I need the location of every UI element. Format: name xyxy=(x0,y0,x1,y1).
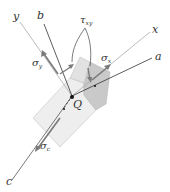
stress-diagram-svg xyxy=(0,0,170,192)
sigma-y-sub: y xyxy=(39,62,42,69)
tau-xy-label: τxy xyxy=(80,15,92,26)
tau-leader-left xyxy=(72,28,85,62)
axis-label-c: c xyxy=(6,176,12,187)
sigma-x-label: σx xyxy=(101,53,111,64)
axis-label-b: b xyxy=(37,10,44,21)
sigma-x-sub: x xyxy=(108,57,111,64)
a-axis-dot xyxy=(94,85,96,87)
axis-label-x: x xyxy=(152,24,158,35)
axis-label-y: y xyxy=(13,11,19,22)
stress-diagram: y b x a c Q σy σx σc τxy xyxy=(0,0,170,192)
c-axis-dot xyxy=(63,108,65,110)
sigma-y-base: σ xyxy=(32,57,39,68)
tau-xy-sub: xy xyxy=(86,19,93,26)
sigma-c-label: σc xyxy=(40,141,50,152)
sigma-x-base: σ xyxy=(101,52,108,63)
axis-label-a: a xyxy=(155,51,162,62)
point-label-q: Q xyxy=(73,99,82,110)
sigma-c-sub: c xyxy=(47,145,50,152)
sigma-c-base: σ xyxy=(40,140,47,151)
y-axis-line xyxy=(20,22,72,96)
sigma-y-arrow xyxy=(44,54,58,74)
sigma-y-label: σy xyxy=(32,58,42,69)
